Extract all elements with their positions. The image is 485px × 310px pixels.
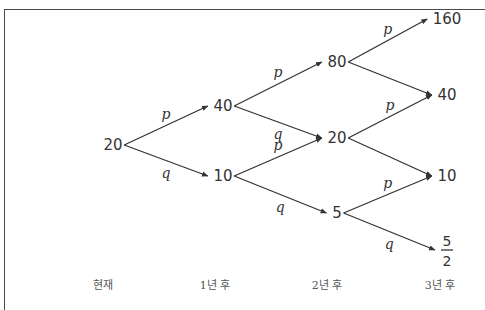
tree-node: 5	[332, 204, 342, 222]
tree-node: 20	[103, 136, 122, 154]
tree-node: 10	[213, 167, 232, 185]
tree-node: 40	[213, 97, 232, 115]
tree-edge	[348, 138, 432, 176]
fraction-numerator: 5	[443, 233, 452, 249]
edge-label-p: p	[274, 64, 283, 80]
stage-label: 현재	[93, 279, 113, 292]
tree-edge	[348, 62, 432, 95]
tree-node-fraction: 52	[441, 233, 453, 269]
tree-node: 10	[437, 167, 456, 185]
stage-label: 2년 후	[312, 279, 343, 292]
tree-node: 20	[327, 129, 346, 147]
edge-label-q: q	[162, 165, 171, 181]
tree-node: 40	[437, 86, 456, 104]
edge-label-p: p	[383, 21, 392, 37]
edge-label-p: p	[162, 106, 171, 122]
edge-label-q: q	[276, 199, 285, 215]
edge-label-p: p	[386, 97, 395, 113]
stage-label: 3년 후	[425, 279, 456, 292]
stage-label: 1년 후	[200, 279, 231, 292]
tree-node: 160	[433, 10, 462, 28]
tree-node: 80	[327, 53, 346, 71]
edge-label-p: p	[383, 175, 392, 191]
edge-label-p: p	[274, 137, 283, 153]
fraction-denominator: 2	[443, 253, 452, 269]
edge-label-q: q	[385, 236, 394, 252]
